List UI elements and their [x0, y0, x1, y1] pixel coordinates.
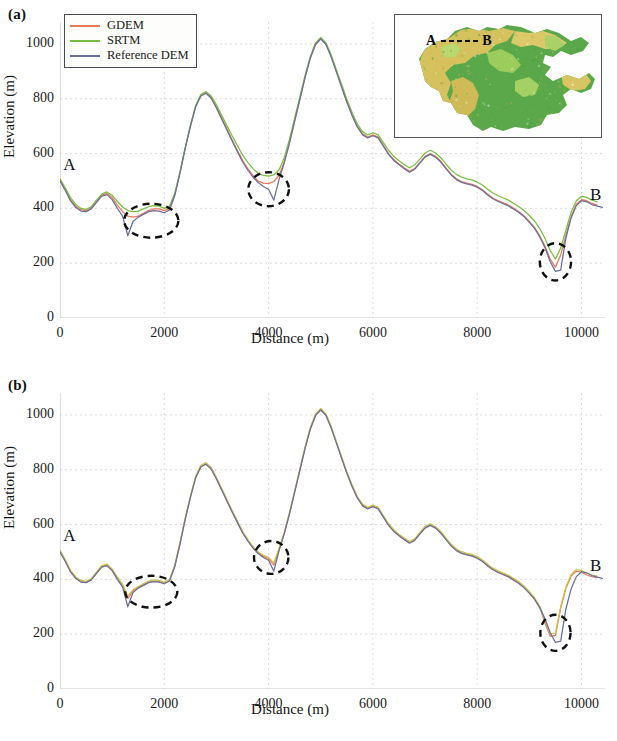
terrain-speckle — [586, 115, 588, 117]
terrain-speckle — [416, 32, 417, 33]
terrain-speckle — [409, 51, 411, 53]
terrain-speckle — [538, 119, 541, 122]
terrain-speckle — [453, 16, 454, 17]
terrain-speckle — [493, 21, 494, 22]
terrain-speckle — [540, 52, 542, 54]
transect-start-label: A — [426, 33, 437, 48]
terrain-speckle — [502, 32, 504, 34]
terrain-speckle — [536, 124, 538, 126]
terrain-speckle — [413, 123, 415, 125]
terrain-speckle — [418, 127, 419, 128]
terrain-speckle — [478, 94, 479, 95]
terrain-speckle — [516, 18, 517, 19]
x-tick-label: 10000 — [547, 697, 617, 711]
terrain-speckle — [577, 107, 578, 108]
terrain-speckle — [414, 109, 415, 110]
terrain-speckle — [543, 34, 544, 35]
terrain-speckle — [549, 107, 551, 109]
terrain-speckle — [555, 33, 556, 34]
terrain-speckle — [572, 35, 575, 38]
terrain-speckle — [503, 86, 504, 87]
terrain-speckle — [499, 53, 500, 54]
terrain-speckle — [516, 35, 518, 37]
terrain-speckle — [546, 83, 547, 84]
terrain-speckle — [491, 120, 492, 121]
terrain-speckle — [478, 34, 480, 36]
terrain-speckle — [476, 33, 477, 34]
terrain-speckle — [540, 39, 542, 41]
terrain-speckle — [580, 96, 581, 97]
terrain-speckle — [418, 120, 420, 122]
terrain-speckle — [450, 93, 451, 94]
terrain-speckle — [581, 60, 583, 62]
terrain-speckle — [452, 65, 454, 67]
terrain-speckle — [424, 131, 425, 132]
terrain-speckle — [583, 98, 584, 99]
terrain-speckle — [559, 65, 560, 66]
terrain-speckle — [439, 47, 440, 48]
terrain-speckle — [485, 78, 487, 80]
terrain-speckle — [465, 29, 468, 32]
terrain-speckle — [585, 72, 588, 75]
terrain-speckle — [411, 125, 412, 126]
legend-label: Reference DEM — [107, 49, 189, 62]
terrain-speckle — [521, 35, 522, 36]
terrain-speckle — [577, 23, 578, 24]
terrain-speckle — [434, 26, 436, 28]
terrain-speckle — [422, 114, 424, 116]
terrain-speckle — [436, 124, 437, 125]
terrain-speckle — [474, 21, 476, 23]
x-tick-label: 8000 — [442, 326, 512, 340]
terrain-speckle — [600, 123, 601, 125]
legend-color-swatch — [70, 55, 100, 57]
terrain-speckle — [537, 84, 539, 86]
terrain-speckle — [404, 100, 405, 101]
terrain-speckle — [447, 123, 449, 125]
terrain-speckle — [418, 53, 419, 54]
terrain-speckle — [558, 85, 560, 87]
terrain-speckle — [541, 135, 542, 136]
terrain-speckle — [513, 46, 514, 47]
terrain-speckle — [574, 49, 575, 50]
terrain-speckle — [457, 70, 458, 71]
terrain-speckle — [439, 29, 441, 31]
terrain-speckle — [446, 79, 447, 80]
terrain-speckle — [475, 112, 476, 113]
terrain-speckle — [598, 77, 601, 80]
terrain-speckle — [510, 102, 512, 104]
legend-label: GDEM — [107, 19, 144, 32]
terrain-speckle — [468, 23, 469, 24]
terrain-speckle — [462, 85, 463, 86]
transect-end-label: B — [482, 33, 491, 48]
terrain-speckle — [452, 119, 455, 122]
terrain-speckle — [539, 82, 540, 83]
endpoint-label: B — [590, 185, 601, 204]
terrain-speckle — [455, 86, 456, 87]
terrain-speckle — [465, 24, 466, 25]
terrain-speckle — [507, 23, 508, 24]
terrain-speckle — [517, 67, 519, 69]
terrain-speckle — [491, 113, 493, 115]
terrain-speckle — [414, 67, 415, 68]
terrain-speckle — [474, 55, 477, 58]
terrain-speckle — [521, 45, 522, 46]
terrain-speckle — [396, 116, 397, 117]
terrain-speckle — [452, 101, 453, 102]
terrain-speckle — [565, 59, 567, 61]
terrain-speckle — [463, 26, 464, 27]
legend-color-swatch — [70, 25, 100, 27]
y-tick-label: 200 — [4, 626, 54, 640]
panel-b-chart: AB — [60, 393, 605, 689]
legend-item: GDEM — [70, 18, 189, 33]
terrain-speckle — [489, 92, 490, 93]
terrain-speckle — [596, 127, 597, 128]
terrain-speckle — [501, 20, 503, 22]
terrain-speckle — [583, 124, 584, 125]
terrain-speckle — [587, 66, 589, 68]
terrain-speckle — [599, 28, 600, 29]
terrain-speckle — [403, 81, 404, 82]
terrain-speckle — [568, 22, 570, 24]
terrain-speckle — [593, 107, 596, 110]
terrain-speckle — [455, 95, 458, 98]
terrain-speckle — [501, 17, 503, 19]
